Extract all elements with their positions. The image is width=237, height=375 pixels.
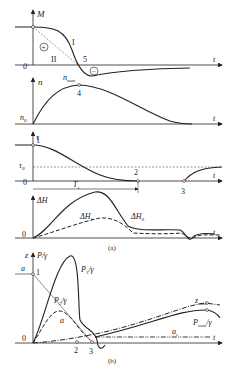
caption-b: (b) [108, 357, 117, 365]
dH0-label: ΔH0 [130, 212, 144, 222]
a-label: a [21, 264, 25, 273]
a-line [33, 274, 92, 342]
label-4: 4 [77, 89, 81, 98]
speed-curve [33, 85, 192, 124]
P1-curve [33, 256, 105, 348]
panel-head: ΔH t 0 ΔH1 ΔH0 (a) [15, 192, 222, 252]
z-label: z [24, 251, 29, 260]
label-I: I [72, 38, 75, 47]
origin-label: 0 [23, 178, 27, 187]
P2-label: P2/γ [53, 296, 68, 306]
panel-torque: M t 0 + − I II 5 [15, 9, 222, 76]
x-label: t [213, 333, 216, 342]
y-label: ΔH [36, 196, 49, 205]
label-1: 1 [36, 136, 40, 145]
a-line-label: a [60, 316, 64, 325]
as-label: as [172, 327, 178, 337]
label-2: 2 [134, 168, 138, 177]
minus-sign: − [92, 68, 96, 76]
Pg-label: P/γ [36, 251, 48, 260]
y-label: n [38, 77, 43, 87]
x-label: t [213, 228, 216, 237]
label-3: 3 [181, 187, 185, 196]
dH1-label: ΔH1 [79, 212, 93, 222]
panel-speed: n t n0 4 nmax [15, 73, 222, 124]
Ts-label: Ts [73, 180, 79, 190]
label-5: 5 [83, 55, 87, 64]
nmax-label: nmax [63, 73, 76, 83]
Pmax-label: Pmax/γ [192, 318, 212, 328]
x-label: t [213, 55, 216, 64]
gate-curve [15, 145, 138, 181]
tau0-label: τ0 [19, 161, 25, 171]
label-1: 1 [36, 268, 40, 277]
x-label: t [213, 171, 216, 180]
zmax-label: zmax [194, 296, 207, 306]
n0-label: n0 [20, 113, 27, 123]
origin-label: 0 [22, 334, 26, 343]
panel-gate: τ t 0 τ0 1 2 3 Ts [15, 132, 222, 196]
panel-pressure: z P/γ t 0 a 1 2 3 P1/γ P2/γ a zmax Pmax/… [15, 251, 222, 365]
label-3: 3 [89, 347, 93, 356]
label-II: II [51, 55, 57, 64]
label-2: 2 [74, 346, 78, 355]
x-label: t [213, 114, 216, 123]
y-label: M [36, 9, 45, 19]
P1-label: P1/γ [80, 265, 95, 275]
dH0-curve [33, 192, 215, 239]
water-hammer-diagram: M t 0 + − I II 5 n t n0 4 nmax τ t 0 τ0 [0, 0, 237, 375]
dH1-curve [33, 218, 220, 238]
origin-label: 0 [23, 62, 27, 71]
plus-sign: + [42, 44, 46, 52]
origin-label: 0 [22, 230, 26, 239]
caption-a: (a) [108, 244, 116, 252]
